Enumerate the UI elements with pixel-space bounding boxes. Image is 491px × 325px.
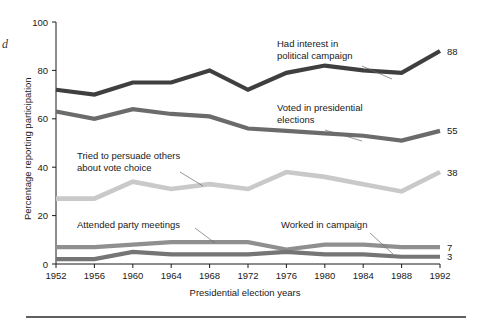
- y-axis-tick-marks: [52, 22, 56, 264]
- end-value-4: 3: [447, 251, 452, 262]
- annotation-attended-line1: Attended party meetings: [77, 219, 180, 230]
- series-line-2: [56, 172, 440, 199]
- y-tick-label-80: 80: [37, 65, 48, 76]
- x-tick-label-1992: 1992: [429, 270, 450, 281]
- x-tick-label-1976: 1976: [276, 270, 297, 281]
- participation-line-chart: 020406080100 195219561960196419681972197…: [0, 0, 491, 325]
- end-value-2: 38: [447, 167, 458, 178]
- end-value-0: 88: [447, 46, 458, 57]
- annotation-had-interest-line2: political campaign: [277, 50, 353, 61]
- x-tick-label-1972: 1972: [237, 270, 258, 281]
- x-tick-label-1964: 1964: [161, 270, 182, 281]
- annotation-worked-line1: Worked in campaign: [281, 219, 367, 230]
- y-axis-title: Percentage reporting participation: [22, 77, 33, 220]
- x-axis-tick-marks: [56, 264, 440, 268]
- x-tick-label-1988: 1988: [391, 270, 412, 281]
- series-line-3: [56, 242, 440, 249]
- y-tick-label-60: 60: [37, 113, 48, 124]
- x-tick-label-1956: 1956: [84, 270, 105, 281]
- y-axis-tick-labels: 020406080100: [32, 17, 48, 270]
- series-line-1: [56, 109, 440, 140]
- x-tick-label-1960: 1960: [122, 270, 143, 281]
- x-tick-label-1984: 1984: [353, 270, 374, 281]
- y-tick-label-40: 40: [37, 162, 48, 173]
- series-line-4: [56, 252, 440, 259]
- annotation-persuade: Tried to persuade othersabout vote choic…: [77, 150, 203, 186]
- x-tick-label-1952: 1952: [45, 270, 66, 281]
- x-tick-label-1968: 1968: [199, 270, 220, 281]
- annotation-persuade-line2: about vote choice: [77, 162, 151, 173]
- annotation-had-interest-line1: Had interest in: [277, 38, 338, 49]
- series-end-values: 88553873: [447, 46, 458, 263]
- y-tick-label-20: 20: [37, 210, 48, 221]
- y-tick-label-0: 0: [43, 259, 48, 270]
- annotation-voted-line1: Voted in presidential: [277, 102, 363, 113]
- annotation-attended: Attended party meetings: [77, 219, 215, 243]
- series-line-0: [56, 51, 440, 95]
- annotation-persuade-leader: [180, 172, 203, 186]
- y-tick-label-100: 100: [32, 17, 48, 28]
- annotation-voted-line2: elections: [277, 114, 315, 125]
- x-tick-label-1980: 1980: [314, 270, 335, 281]
- x-axis-title: Presidential election years: [190, 287, 301, 298]
- x-axis-tick-labels: 1952195619601964196819721976198019841988…: [45, 270, 450, 281]
- series-annotations: Had interest inpolitical campaignVoted i…: [77, 38, 393, 254]
- plot-axes: [52, 22, 440, 268]
- end-value-1: 55: [447, 125, 458, 136]
- annotation-persuade-line1: Tried to persuade others: [77, 150, 180, 161]
